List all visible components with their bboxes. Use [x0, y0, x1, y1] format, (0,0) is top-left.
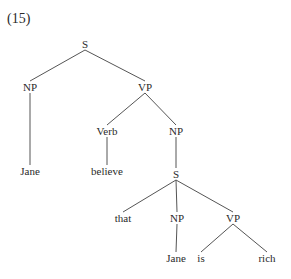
tree-edge [85, 50, 145, 81]
tree-node-np: NP [169, 126, 183, 137]
tree-edge [30, 50, 85, 81]
tree-node-vp: VP [138, 82, 152, 93]
tree-node-s: S [82, 39, 88, 50]
tree-edge [145, 93, 176, 125]
tree-node-vp: VP [226, 213, 240, 224]
tree-leaf-word: Jane [20, 166, 40, 177]
syntax-tree-edges [0, 0, 291, 279]
tree-leaf-word: believe [91, 166, 123, 177]
tree-edge [176, 180, 177, 212]
tree-edge [176, 180, 233, 212]
tree-node-s: S [173, 169, 179, 180]
tree-node-np: NP [170, 213, 184, 224]
tree-edge [201, 224, 233, 252]
tree-leaf-word: rich [258, 253, 275, 264]
tree-node-verb: Verb [97, 126, 118, 137]
tree-leaf-word: that [115, 213, 132, 224]
tree-edge [107, 93, 145, 125]
tree-node-np: NP [23, 82, 37, 93]
tree-edge [176, 224, 177, 252]
tree-edge [233, 224, 267, 252]
tree-leaf-word: Jane [166, 253, 186, 264]
tree-edge [123, 180, 176, 212]
tree-leaf-word: is [197, 253, 204, 264]
